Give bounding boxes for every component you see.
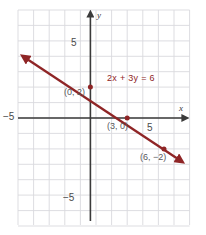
coordinate-plane-figure: 5 −5 5 −5 y x (0, 2) (3, 0) (6, −2) 2x +… — [0, 0, 206, 235]
y-axis-tick-label-neg5: −5 — [63, 193, 74, 203]
data-point-6-neg2 — [162, 146, 167, 151]
x-axis-name-label: x — [179, 104, 183, 113]
equation-label: 2x + 3y = 6 — [107, 74, 155, 83]
data-point-3-0 — [125, 116, 130, 121]
x-axis-tick-label-neg5: −5 — [3, 112, 14, 122]
data-point-0-2 — [88, 85, 93, 90]
point-label-x-intercept: (3, 0) — [107, 122, 128, 131]
graph-canvas — [0, 0, 206, 235]
y-axis-tick-label-5: 5 — [71, 38, 77, 48]
y-axis-name-label: y — [97, 11, 101, 20]
x-axis-tick-label-5: 5 — [147, 123, 153, 133]
point-label-third: (6, −2) — [140, 153, 166, 162]
point-label-y-intercept: (0, 2) — [64, 88, 85, 97]
